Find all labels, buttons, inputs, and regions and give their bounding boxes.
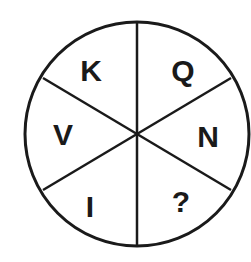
letter-wheel-diagram: K Q N ? I V — [0, 0, 251, 262]
segment-bottom-right-unknown: ? — [172, 185, 190, 218]
segment-top-left-letter: K — [80, 54, 102, 87]
segment-bottom-left-letter: I — [86, 190, 94, 223]
segment-right-letter: N — [197, 120, 219, 153]
segment-top-right-letter: Q — [171, 54, 194, 87]
segment-left-letter: V — [53, 118, 73, 151]
